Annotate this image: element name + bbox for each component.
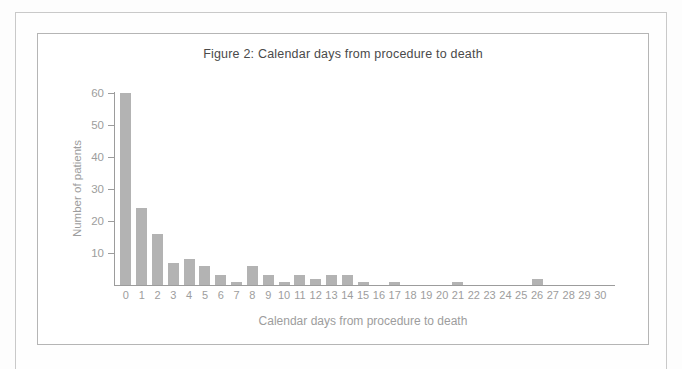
x-tick-label: 0 (118, 289, 134, 301)
bar-slot (592, 93, 608, 285)
bar-slot (355, 93, 371, 285)
x-tick-label: 2 (150, 289, 166, 301)
bar-slot (577, 93, 593, 285)
y-tick-mark (108, 221, 115, 222)
y-tick-label: 10 (91, 247, 104, 259)
bar-slot (434, 93, 450, 285)
x-tick-label: 22 (466, 289, 482, 301)
x-tick-label: 10 (276, 289, 292, 301)
y-tick-label: 20 (91, 215, 104, 227)
bar-day-5 (199, 266, 210, 285)
x-tick-label: 23 (482, 289, 498, 301)
bar-slot (403, 93, 419, 285)
x-tick-label: 8 (245, 289, 261, 301)
bar-day-9 (263, 275, 274, 285)
x-axis-labels: 0123456789101112131415161718192021222324… (118, 289, 608, 301)
bar-day-0 (120, 93, 131, 285)
bar-slot (308, 93, 324, 285)
x-axis-line (114, 285, 615, 286)
bar-day-3 (168, 263, 179, 285)
bar-slot (498, 93, 514, 285)
bar-day-6 (215, 275, 226, 285)
x-tick-label: 16 (371, 289, 387, 301)
y-tick-label: 40 (91, 151, 104, 163)
bar-day-4 (184, 259, 195, 285)
bar-slot (213, 93, 229, 285)
x-tick-label: 24 (498, 289, 514, 301)
page-frame: Figure 2: Calendar days from procedure t… (15, 12, 667, 369)
bar-slot (181, 93, 197, 285)
bar-day-1 (136, 208, 147, 285)
y-tick-mark (108, 125, 115, 126)
y-tick: 20 (38, 213, 115, 229)
bar-slot (339, 93, 355, 285)
bar-day-11 (294, 275, 305, 285)
y-tick: 60 (38, 85, 115, 101)
x-tick-label: 25 (513, 289, 529, 301)
x-tick-label: 13 (324, 289, 340, 301)
bar-slot (545, 93, 561, 285)
y-tick: 50 (38, 117, 115, 133)
x-tick-label: 4 (181, 289, 197, 301)
x-tick-label: 30 (592, 289, 608, 301)
y-tick-mark (108, 253, 115, 254)
x-tick-label: 3 (165, 289, 181, 301)
x-tick-label: 29 (577, 289, 593, 301)
y-tick-label: 50 (91, 119, 104, 131)
x-tick-label: 26 (529, 289, 545, 301)
x-tick-label: 28 (561, 289, 577, 301)
bar-slot (466, 93, 482, 285)
x-tick-label: 9 (260, 289, 276, 301)
bar-slot (418, 93, 434, 285)
x-tick-label: 21 (450, 289, 466, 301)
y-tick: 30 (38, 181, 115, 197)
y-tick-mark (108, 189, 115, 190)
x-tick-label: 6 (213, 289, 229, 301)
x-tick-label: 19 (418, 289, 434, 301)
x-tick-label: 14 (339, 289, 355, 301)
x-tick-label: 1 (134, 289, 150, 301)
bar-slot (513, 93, 529, 285)
y-tick: 40 (38, 149, 115, 165)
bar-slot (229, 93, 245, 285)
y-tick-label: 60 (91, 87, 104, 99)
bar-slot (529, 93, 545, 285)
x-tick-label: 20 (434, 289, 450, 301)
x-tick-label: 18 (403, 289, 419, 301)
bar-slot (134, 93, 150, 285)
y-tick-mark (108, 93, 115, 94)
bar-slot (371, 93, 387, 285)
bar-slot (245, 93, 261, 285)
x-tick-label: 15 (355, 289, 371, 301)
bar-day-14 (342, 275, 353, 285)
bar-day-8 (247, 266, 258, 285)
figure-2-panel: Figure 2: Calendar days from procedure t… (37, 33, 649, 345)
x-tick-label: 7 (229, 289, 245, 301)
x-tick-label: 27 (545, 289, 561, 301)
x-tick-label: 17 (387, 289, 403, 301)
x-axis-title: Calendar days from procedure to death (118, 314, 608, 328)
bar-day-2 (152, 234, 163, 285)
y-tick: 10 (38, 245, 115, 261)
bar-slot (450, 93, 466, 285)
x-tick-label: 5 (197, 289, 213, 301)
bar-slot (276, 93, 292, 285)
y-tick-label: 30 (91, 183, 104, 195)
bar-slot (118, 93, 134, 285)
bar-slot (387, 93, 403, 285)
y-tick-mark (108, 157, 115, 158)
bar-slot (165, 93, 181, 285)
x-tick-label: 11 (292, 289, 308, 301)
bars (118, 93, 608, 285)
bar-slot (292, 93, 308, 285)
bar-slot (324, 93, 340, 285)
bar-slot (150, 93, 166, 285)
bar-slot (561, 93, 577, 285)
bar-day-13 (326, 275, 337, 285)
x-tick-label: 12 (308, 289, 324, 301)
bar-slot (260, 93, 276, 285)
bar-slot (482, 93, 498, 285)
figure-title: Figure 2: Calendar days from procedure t… (38, 47, 648, 61)
bar-slot (197, 93, 213, 285)
